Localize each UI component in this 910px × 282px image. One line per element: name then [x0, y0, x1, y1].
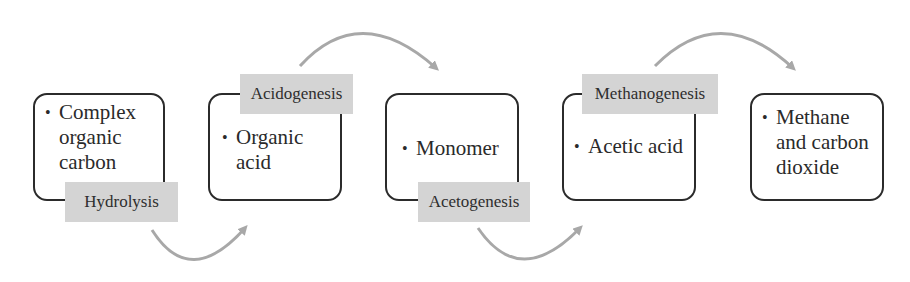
arrow-acetogenesis — [478, 228, 580, 259]
stage-text-line: acid — [236, 150, 303, 175]
stage-text-line: Methane — [776, 105, 869, 130]
stage-item: • Organic acid — [222, 125, 303, 175]
stage-box-methane-and-carbon-dioxide: • Methane and carbon dioxide — [750, 93, 884, 201]
stage-item: • Monomer — [402, 136, 499, 161]
stage-text-line: and carbon — [776, 130, 869, 155]
process-label-methanogenesis: Methanogenesis — [582, 74, 718, 114]
process-label-hydrolysis: Hydrolysis — [65, 182, 178, 222]
stage-item: • Acetic acid — [574, 134, 683, 159]
bullet-icon: • — [402, 136, 408, 161]
bullet-icon: • — [222, 125, 228, 150]
stage-item: • Methane and carbon dioxide — [762, 105, 869, 180]
arrow-hydrolysis — [152, 228, 245, 260]
arrow-acidogenesis — [300, 33, 436, 68]
stage-text-line: carbon — [59, 150, 136, 175]
stage-text-line: Acetic acid — [588, 134, 683, 159]
process-label-acetogenesis: Acetogenesis — [418, 182, 530, 222]
stage-text-line: Monomer — [416, 136, 499, 161]
bullet-icon: • — [762, 105, 768, 130]
stage-item: • Complex organic carbon — [45, 100, 136, 175]
stage-text-line: Organic — [236, 125, 303, 150]
arrow-methanogenesis — [655, 33, 793, 68]
stage-text-line: Complex — [59, 100, 136, 125]
process-label-acidogenesis: Acidogenesis — [240, 74, 353, 114]
bullet-icon: • — [574, 134, 580, 159]
bullet-icon: • — [45, 100, 51, 125]
stage-text-line: organic — [59, 125, 136, 150]
stage-text-line: dioxide — [776, 155, 869, 180]
